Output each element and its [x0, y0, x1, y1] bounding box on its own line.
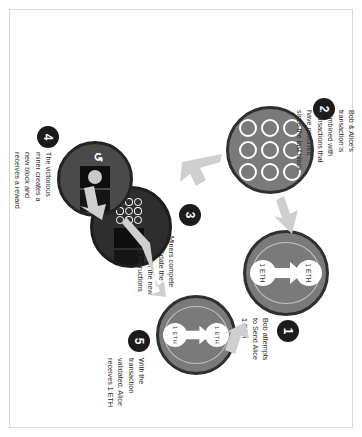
flow-arrow-3-to-4: [78, 184, 106, 222]
transaction-grid: [239, 119, 301, 181]
transfer-circle-1-icon: 1 ETH 1 ETH: [243, 230, 329, 316]
rotated-infographic: 1 ETH 1 ETH 1 Bob attempts to Send Alice…: [0, 0, 362, 437]
step-4-caption: The victorious miner creates a new block…: [11, 152, 53, 256]
reward-coin-icon: [88, 170, 102, 184]
step-4-number: 4: [37, 126, 59, 148]
step-1-graphic: 1 ETH 1 ETH: [243, 230, 329, 316]
flow-arrow-5-to-1: [221, 320, 249, 354]
step-2-caption: Bob & Alice's transaction is combined wi…: [293, 110, 356, 228]
step-5-number: 5: [128, 330, 150, 352]
transaction-token-icon: [261, 163, 279, 181]
transaction-token-icon: [134, 198, 142, 206]
up-arrow-icon: [181, 324, 211, 346]
step-5-caption: With the transaction validated, Alice re…: [104, 358, 146, 432]
step-1-number: 1: [277, 320, 299, 342]
transaction-token-icon: [239, 141, 257, 159]
flow-arrow-4-to-5: [122, 217, 166, 299]
diagram-canvas: 1 ETH 1 ETH 1 Bob attempts to Send Alice…: [0, 0, 362, 437]
miner-glyph-icon: ↺: [92, 152, 104, 162]
transaction-token-icon: [239, 119, 257, 137]
transaction-token-icon: [261, 119, 279, 137]
transaction-token-icon: [261, 141, 279, 159]
step-3-number: 3: [179, 204, 201, 226]
transaction-token-icon: [134, 207, 142, 215]
up-arrow-icon: [269, 260, 303, 286]
transaction-token-icon: [239, 163, 257, 181]
flow-arrow-1-to-2: [272, 196, 298, 236]
flow-arrow-2-to-3: [168, 150, 222, 194]
